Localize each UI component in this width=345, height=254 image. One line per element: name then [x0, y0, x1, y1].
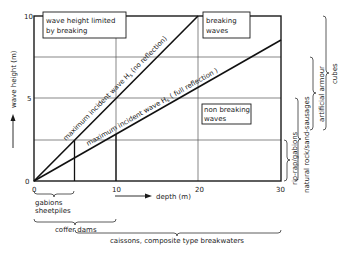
- svg-text:artificial armour: artificial armour: [318, 66, 326, 122]
- svg-text:natural rock/sand-sausages: natural rock/sand-sausages: [303, 96, 311, 193]
- curve-label-full-reflection: maximum incident wave Hs ( full reflecti…: [85, 66, 220, 148]
- svg-text:waves: waves: [206, 27, 228, 35]
- svg-text:gabions: gabions: [35, 199, 63, 207]
- box-non-breaking-waves: non breaking waves: [202, 104, 251, 124]
- x-tick-30: 30: [276, 186, 285, 194]
- y-axis-label: wave height (m): [10, 50, 18, 148]
- svg-text:non breaking: non breaking: [204, 106, 250, 114]
- y-tick-0: 0: [25, 178, 29, 186]
- breakwater-selection-diagram: 10 5 0 0 10 20 30 wave height (m) depth …: [0, 0, 345, 254]
- svg-text:cubes: cubes: [331, 63, 339, 84]
- svg-text:wave height (m): wave height (m): [10, 50, 18, 108]
- svg-text:waves: waves: [204, 115, 226, 123]
- y-tick-5: 5: [27, 95, 31, 103]
- y-tick-10: 10: [24, 13, 33, 21]
- range-riprap-gabions: rip-rap/gabions: [284, 131, 299, 185]
- svg-text:by breaking: by breaking: [46, 27, 87, 35]
- svg-text:depth (m): depth (m): [156, 193, 191, 201]
- svg-text:breaking: breaking: [206, 17, 237, 25]
- range-artificial-armour: artificial armour: [310, 57, 326, 130]
- svg-text:sheetpiles: sheetpiles: [35, 207, 71, 215]
- x-axis-label: depth (m): [115, 193, 191, 201]
- box-breaking-waves: breaking waves: [203, 12, 250, 38]
- arrow-up-icon: [11, 114, 16, 121]
- range-gabions-sheetpiles: gabions sheetpiles: [34, 191, 74, 215]
- arrow-right-icon: [145, 194, 152, 199]
- box-limited-by-breaking: wave height limited by breaking: [43, 12, 126, 38]
- svg-text:caissons, composite type break: caissons, composite type breakwaters: [110, 237, 244, 245]
- svg-text:wave height limited: wave height limited: [46, 17, 115, 25]
- x-tick-10: 10: [112, 186, 121, 194]
- range-caissons: caissons, composite type breakwaters: [75, 230, 281, 245]
- x-tick-20: 20: [195, 186, 204, 194]
